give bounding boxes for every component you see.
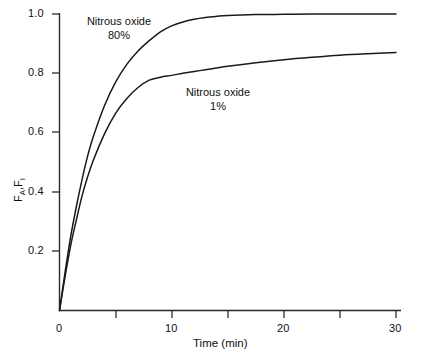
y-tick-label-0.4: 0.4	[28, 185, 44, 197]
y-axis-title: FA,FI	[12, 178, 27, 202]
y-tick-label-0.6: 0.6	[28, 125, 44, 137]
series-annotation-80-line1: Nitrous oxide	[64, 15, 174, 29]
y-axis-title-sub2: I	[18, 178, 27, 180]
x-tick-label-20: 20	[277, 322, 290, 334]
svg-text:FA,FI: FA,FI	[12, 178, 27, 202]
series-line-nitrous-oxide-80	[60, 14, 397, 311]
y-tick-label-0.8: 0.8	[28, 66, 44, 78]
y-axis-ticks	[52, 14, 59, 251]
series-annotation-nitrous-oxide-80: Nitrous oxide 80%	[64, 15, 174, 43]
y-tick-label-1.0: 1.0	[28, 7, 44, 19]
x-tick-label-30: 30	[389, 322, 402, 334]
x-axis-title: Time (min)	[193, 337, 248, 349]
series-annotation-1-line2: 1%	[163, 100, 273, 114]
series-annotation-nitrous-oxide-1: Nitrous oxide 1%	[163, 86, 273, 114]
x-tick-label-10: 10	[165, 322, 178, 334]
nitrous-oxide-uptake-chart: FA,FI 1.0 0.8 0.6 0.4 0.2 0 10 20 30 Tim…	[0, 0, 422, 354]
series-annotation-1-line1: Nitrous oxide	[163, 86, 273, 100]
x-axis-ticks	[116, 311, 396, 318]
x-tick-label-0: 0	[56, 322, 62, 334]
y-tick-label-0.2: 0.2	[28, 244, 44, 256]
series-annotation-80-line2: 80%	[64, 29, 174, 43]
plot-area: FA,FI	[0, 0, 422, 354]
